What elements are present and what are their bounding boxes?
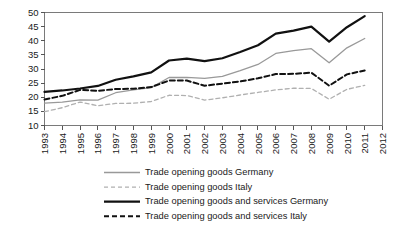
x-tick-label: 1997 <box>110 133 121 154</box>
chart-figure: 504540353025201510 199319941995199619971… <box>0 0 396 229</box>
line-chart: 504540353025201510 199319941995199619971… <box>0 0 396 229</box>
x-tick-label: 2006 <box>270 133 281 154</box>
y-tick-label: 25 <box>28 77 39 88</box>
series-line-1 <box>45 85 365 111</box>
x-tick-label: 2011 <box>359 133 370 153</box>
y-axis: 504540353025201510 <box>28 7 45 131</box>
x-tick-label: 2004 <box>235 133 246 154</box>
x-tick-label: 2007 <box>288 133 299 154</box>
x-tick-label: 2009 <box>324 133 335 154</box>
y-tick-label: 20 <box>28 91 39 102</box>
y-tick-label: 40 <box>28 35 39 46</box>
y-tick-label: 35 <box>28 49 39 60</box>
legend-label-2: Trade opening goods and services Germany <box>145 196 328 206</box>
y-tick-label: 45 <box>28 21 39 32</box>
legend-label-1: Trade opening goods Italy <box>145 182 253 192</box>
y-tick-label: 15 <box>28 105 39 116</box>
x-tick-label: 1999 <box>146 133 157 154</box>
plot-frame <box>45 13 383 126</box>
legend-label-0: Trade opening goods Germany <box>145 167 274 177</box>
x-tick-label: 1993 <box>39 133 50 154</box>
x-tick-label: 1998 <box>128 133 139 154</box>
series-line-2 <box>45 16 365 92</box>
x-tick-label: 2012 <box>377 133 388 154</box>
x-tick-label: 1995 <box>75 133 86 154</box>
x-tick-label: 2010 <box>342 133 353 154</box>
x-tick-label: 2005 <box>253 133 264 154</box>
series-line-3 <box>45 70 365 99</box>
series-line-0 <box>45 38 365 103</box>
x-tick-label: 2000 <box>164 133 175 154</box>
x-tick-label: 1994 <box>57 133 68 154</box>
x-tick-label: 2008 <box>306 133 317 154</box>
x-tick-label: 2002 <box>199 133 210 154</box>
y-tick-label: 10 <box>28 120 39 131</box>
x-tick-label: 2001 <box>181 133 192 154</box>
x-axis: 1993199419951996199719981999200020012002… <box>39 126 388 155</box>
chart-legend: Trade opening goods GermanyTrade opening… <box>104 167 328 221</box>
y-tick-label: 50 <box>28 7 39 18</box>
x-tick-label: 1996 <box>92 133 103 154</box>
series-lines <box>45 16 365 111</box>
y-tick-label: 30 <box>28 63 39 74</box>
x-tick-label: 2003 <box>217 133 228 154</box>
legend-label-3: Trade opening goods and services Italy <box>145 211 307 221</box>
